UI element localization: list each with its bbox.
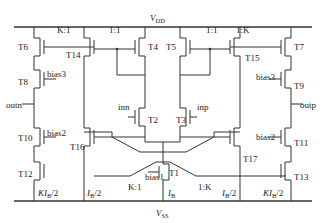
ratio-1k-bottom: 1:K [198, 182, 212, 192]
ratio-11-left: 1:1 [109, 25, 121, 35]
vss-label: VSS [156, 208, 169, 219]
t3-label: T3 [176, 115, 186, 125]
bias1-label: bias1 [145, 172, 164, 182]
inn-label: inn [118, 102, 130, 112]
bias3-right-label: bias3 [256, 72, 275, 82]
bias3-left-label: bias3 [47, 69, 66, 79]
ratio-11-right: 1:1 [206, 25, 218, 35]
ib2-left-label: IB/2 [86, 188, 101, 199]
t10-label: T10 [18, 133, 33, 143]
t4-branch [94, 27, 145, 137]
t16-label: T16 [70, 142, 85, 152]
t12-label: T12 [18, 169, 33, 179]
kib2-right-label: KIB/2 [262, 188, 283, 199]
ib2-right-label: IB/2 [221, 188, 236, 199]
t5-branch [180, 27, 230, 137]
t2-label: T2 [148, 115, 158, 125]
ib-center-label: IB [167, 188, 176, 199]
t4-label: T4 [148, 42, 158, 52]
ratio-1k-top: 1:K [236, 25, 250, 35]
inp-label: inp [197, 102, 209, 112]
t9-label: T9 [294, 81, 304, 91]
t5-label: T5 [166, 42, 176, 52]
bias2-right-label: bias2 [256, 132, 275, 142]
circuit-diagram: VDD VSS T6 T8 bias3 outn T10 bias2 T12 K… [0, 0, 324, 223]
outp-label: outp [300, 100, 317, 110]
t13-label: T13 [294, 172, 309, 182]
outn-label: outn [6, 100, 23, 110]
bias2-left-label: bias2 [47, 128, 66, 138]
t1-tail [94, 137, 286, 201]
kib2-left-label: KIB/2 [37, 188, 58, 199]
ratio-k1-top: K:1 [57, 25, 71, 35]
t8-label: T8 [18, 77, 28, 87]
ratio-k1-bottom: K:1 [128, 182, 142, 192]
t15-label: T15 [245, 53, 260, 63]
t14-label: T14 [66, 50, 81, 60]
t11-label: T11 [294, 138, 308, 148]
t17-label: T17 [243, 154, 258, 164]
t7-label: T7 [294, 42, 304, 52]
t1-label: T1 [169, 168, 179, 178]
t6-label: T6 [18, 42, 28, 52]
vdd-label: VDD [150, 13, 165, 24]
